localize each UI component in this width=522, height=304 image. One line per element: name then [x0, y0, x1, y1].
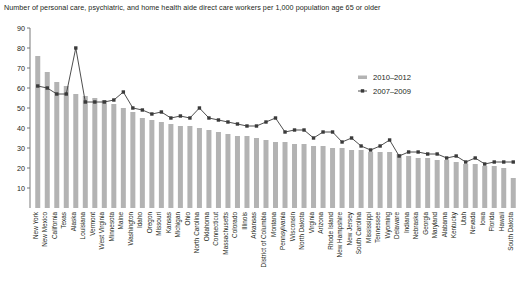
data-point-marker [378, 144, 381, 147]
x-axis-category-label: Louisiana [79, 212, 86, 240]
bar [111, 104, 116, 208]
y-axis-tick-label: 50 [17, 104, 25, 113]
bar [149, 120, 154, 208]
bar [501, 168, 506, 208]
bar [359, 150, 364, 208]
chart-legend: 2010–20122007–2009 [358, 73, 411, 96]
y-axis-tick-label: 80 [17, 44, 25, 53]
y-axis-tick-label: 10 [17, 184, 25, 193]
x-axis-category-label: Nevada [469, 212, 476, 234]
x-axis-category-label: North Carolina [193, 212, 200, 254]
x-axis-category-label: Delaware [393, 212, 400, 239]
bar [368, 152, 373, 208]
x-axis-category-label: Iowa [479, 212, 486, 226]
x-axis-category-label: Florida [488, 212, 495, 232]
y-axis-tick-label: 40 [17, 124, 25, 133]
y-axis: 102030405060708090 [17, 24, 30, 208]
data-point-marker [179, 114, 182, 117]
bar [463, 164, 468, 208]
data-point-marker [388, 138, 391, 141]
data-point-marker [369, 148, 372, 151]
legend-swatch-bar [358, 76, 367, 80]
bar [102, 100, 107, 208]
bar [197, 128, 202, 208]
x-axis-category-label: Arkansas [250, 212, 257, 239]
data-point-marker [36, 84, 39, 87]
x-axis-category-label: Michigan [174, 212, 182, 238]
data-point-marker [493, 160, 496, 163]
bar [330, 148, 335, 208]
data-point-marker [312, 136, 315, 139]
x-axis-category-label: Ohio [184, 212, 191, 226]
bar [492, 166, 497, 208]
bar [121, 108, 126, 208]
data-point-marker [331, 130, 334, 133]
bar [216, 132, 221, 208]
x-axis-category-label: Utah [460, 212, 467, 226]
bar [378, 152, 383, 208]
bar [511, 178, 516, 208]
data-point-marker [359, 144, 362, 147]
data-point-marker [55, 92, 58, 95]
bar [349, 150, 354, 208]
data-point-marker [426, 152, 429, 155]
x-axis-category-label: Massachusetts [222, 212, 229, 255]
data-point-marker [302, 128, 305, 131]
bar [311, 146, 316, 208]
x-axis-category-label: Nebraska [412, 212, 419, 240]
bar [444, 160, 449, 208]
bar [454, 162, 459, 208]
data-point-marker [474, 156, 477, 159]
x-axis-category-label: Pennsylvania [279, 212, 287, 250]
bar [187, 126, 192, 208]
bar [168, 124, 173, 208]
x-axis-category-label: California [51, 212, 58, 239]
data-point-marker [46, 86, 49, 89]
y-axis-tick-label: 30 [17, 144, 25, 153]
bar [302, 144, 307, 208]
data-point-marker [84, 100, 87, 103]
data-point-marker [207, 116, 210, 119]
legend-swatch-marker [361, 89, 364, 92]
data-point-marker [103, 100, 106, 103]
x-axis-category-label: Kansas [165, 212, 172, 233]
y-axis-tick-label: 90 [17, 24, 25, 33]
data-point-marker [445, 156, 448, 159]
bar [340, 148, 345, 208]
bar [130, 112, 135, 208]
bar [235, 136, 240, 208]
bar [73, 94, 78, 208]
x-axis-category-label: Tennessee [374, 212, 381, 243]
data-point-marker [93, 100, 96, 103]
bar [159, 122, 164, 208]
data-point-marker [160, 110, 163, 113]
data-point-marker [112, 98, 115, 101]
x-axis-category-label: Wisconsin [289, 212, 296, 242]
data-point-marker [198, 106, 201, 109]
x-axis-category-label: Rhode Island [327, 212, 334, 250]
x-axis-category-label: New Mexico [41, 212, 48, 247]
x-axis-category-label: Colorado [231, 212, 238, 238]
data-point-marker [245, 124, 248, 127]
x-axis-category-label: Texas [60, 212, 67, 229]
x-axis-category-label: New Jersey [346, 211, 354, 245]
data-point-marker [131, 106, 134, 109]
data-point-marker [236, 122, 239, 125]
bar [283, 142, 288, 208]
bar [206, 130, 211, 208]
data-point-marker [397, 154, 400, 157]
y-axis-tick-label: 20 [17, 164, 25, 173]
data-point-marker [321, 130, 324, 133]
data-point-marker [122, 90, 125, 93]
bar-series-2010-2012 [35, 56, 516, 208]
x-axis-category-label: Georgia [422, 212, 430, 235]
x-axis-category-label: Minnesota [108, 212, 115, 242]
bar [178, 126, 183, 208]
data-point-marker [350, 136, 353, 139]
x-axis-category-label: Wyoming [384, 212, 392, 239]
data-point-marker [74, 46, 77, 49]
data-point-marker [416, 150, 419, 153]
x-axis-category-label: Mississippi [365, 212, 373, 243]
x-axis-category-label: New Hampshire [336, 212, 344, 258]
x-axis-category-label: Arizona [317, 212, 324, 234]
